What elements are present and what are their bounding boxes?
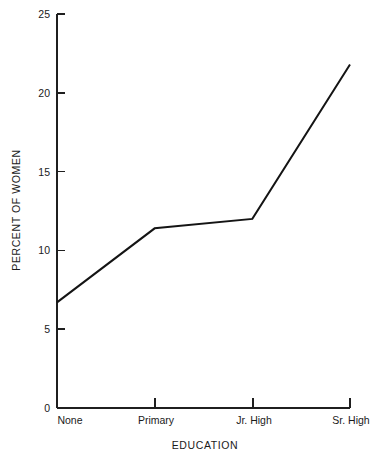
chart-canvas: 25 20 15 10 5 0 None Primary Jr. High Sr…	[0, 0, 386, 463]
x-axis-title: EDUCATION	[172, 439, 238, 451]
line-chart: 25 20 15 10 5 0 None Primary Jr. High Sr…	[0, 0, 386, 463]
y-tick-label-25: 25	[38, 8, 50, 20]
y-tick-label-20: 20	[38, 87, 50, 99]
x-tick-label-primary: Primary	[138, 414, 175, 426]
series-line-percent-of-women	[57, 64, 350, 302]
y-axis-title: PERCENT OF WOMEN	[10, 149, 22, 270]
x-tick-label-sr-high: Sr. High	[332, 414, 370, 426]
y-tick-label-10: 10	[38, 244, 50, 256]
x-tick-label-jr-high: Jr. High	[236, 414, 272, 426]
y-tick-label-15: 15	[38, 166, 50, 178]
y-tick-label-5: 5	[44, 323, 50, 335]
x-tick-label-none: None	[57, 414, 82, 426]
y-tick-label-0: 0	[44, 402, 50, 414]
